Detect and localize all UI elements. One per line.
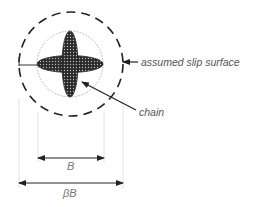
chain-slip-surface-diagram: assumed slip surface chain B βB: [0, 0, 253, 207]
chain-arrow: [82, 82, 136, 110]
extension-lines: [19, 98, 123, 188]
outer-width-label: βB: [62, 187, 77, 199]
chain-label: chain: [139, 106, 164, 118]
slip-surface-label: assumed slip surface: [141, 56, 240, 68]
left-tick: [19, 57, 38, 66]
inner-width-label: B: [67, 160, 74, 172]
